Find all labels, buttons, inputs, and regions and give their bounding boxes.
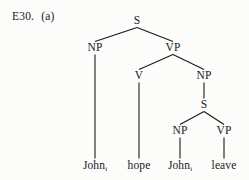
leaf-index-subscript: i	[105, 165, 107, 173]
tree-node-np: NP	[87, 42, 102, 54]
tree-leaf-word: hope	[128, 160, 151, 172]
tree-leaf-word: leave	[212, 160, 237, 172]
tree-nodes: SNPVPVNPSNPVPJohnihopeJohnileave	[0, 0, 249, 180]
figure-canvas: E30.(a) SNPVPVNPSNPVPJohnihopeJohnileave	[0, 0, 249, 180]
tree-leaf-word: Johni	[168, 160, 192, 172]
tree-leaf-word: Johni	[83, 160, 107, 172]
tree-node-vp: VP	[216, 125, 231, 137]
tree-node-np: NP	[172, 125, 187, 137]
tree-node-s: S	[134, 15, 141, 27]
leaf-index-subscript: i	[190, 165, 192, 173]
tree-node-vp: VP	[165, 42, 180, 54]
tree-node-np: NP	[196, 70, 211, 82]
tree-node-s: S	[201, 99, 208, 111]
tree-node-v: V	[135, 70, 144, 82]
